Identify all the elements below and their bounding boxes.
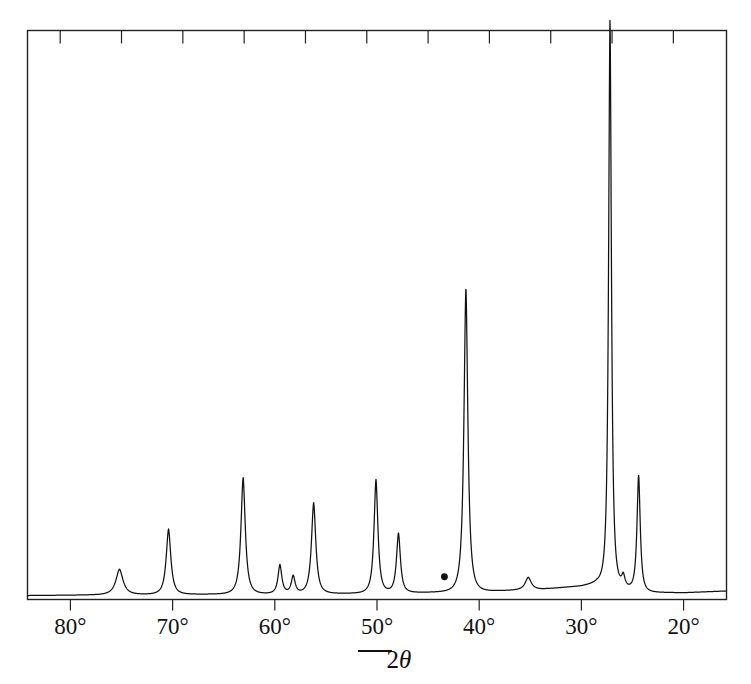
plot-background — [0, 0, 751, 684]
diffraction-plot — [0, 0, 751, 684]
axis-title-number: 2 — [386, 646, 399, 673]
x-tick-label-30: 30° — [565, 614, 597, 640]
x-tick-label-60: 60° — [259, 614, 291, 640]
x-tick-label-40: 40° — [463, 614, 495, 640]
x-axis-title: 2θ — [386, 646, 411, 674]
x-tick-label-20: 20° — [667, 614, 699, 640]
xrd-figure: 80°70°60°50°40°30°20° 2θ — [0, 0, 751, 684]
x-tick-label-50: 50° — [361, 614, 393, 640]
x-tick-label-80: 80° — [54, 614, 86, 640]
peak-marker-dot — [441, 573, 448, 580]
x-tick-label-70: 70° — [157, 614, 189, 640]
axis-title-theta: θ — [399, 646, 411, 673]
